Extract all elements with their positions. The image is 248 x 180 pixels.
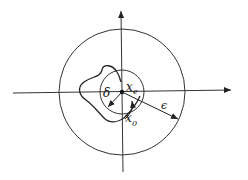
stability-diagram: δ x e ϵ x 0 [0, 0, 248, 180]
equilibrium-label: x [126, 80, 133, 94]
initial-state-subscript: 0 [132, 119, 137, 128]
delta-label: δ [103, 86, 110, 100]
initial-state-label: x [125, 111, 132, 125]
epsilon-label: ϵ [161, 99, 167, 112]
equilibrium-subscript: e [133, 87, 138, 96]
